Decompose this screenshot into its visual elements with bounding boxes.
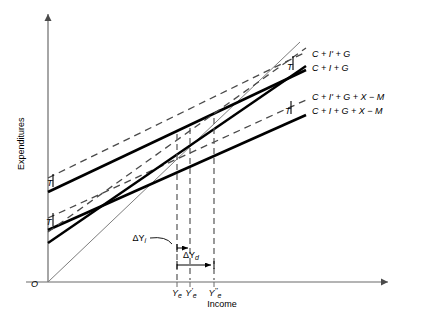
tax-marker-T-right-lower: T — [285, 101, 292, 116]
delta-Yi-annotation: ΔYi — [132, 233, 188, 252]
delta-Yi-label: ΔYi — [132, 233, 146, 244]
curve-labels-group: C + I' + G C + I + G C + I' + G + X − M … — [312, 49, 385, 116]
delta-Yd-label: ΔYd — [183, 250, 200, 261]
tax-marker-T-left-lower: T — [46, 213, 53, 227]
y-axis-title: Expenditures — [16, 117, 26, 170]
tax-marker-label: T — [46, 217, 53, 227]
diagram-canvas: T T T T ΔYi — [0, 0, 433, 317]
x-tick-label-Ye: Ye — [172, 288, 182, 299]
origin-label: O — [31, 279, 38, 289]
x-tick-group: Ye Y'e Y''e — [172, 282, 222, 299]
delta-Yd-annotation: ΔYd — [177, 250, 214, 269]
tax-marker-T-right-upper: T — [287, 56, 294, 72]
x-tick-label-Ye-double-prime: Y''e — [209, 286, 222, 299]
x-axis-title: Income — [207, 299, 237, 309]
forty-five-degree-line — [48, 42, 300, 282]
curve-label-cig: C + I + G — [312, 63, 349, 73]
curve-label-cig-prime: C + I' + G — [312, 49, 350, 59]
x-tick-label-Ye-prime: Y'e — [185, 286, 197, 299]
curve-label-cigxm-prime: C + I' + G + X − M — [312, 92, 385, 102]
keynesian-cross-figure: T T T T ΔYi — [0, 0, 433, 317]
curve-label-cigxm: C + I + G + X − M — [312, 106, 383, 116]
